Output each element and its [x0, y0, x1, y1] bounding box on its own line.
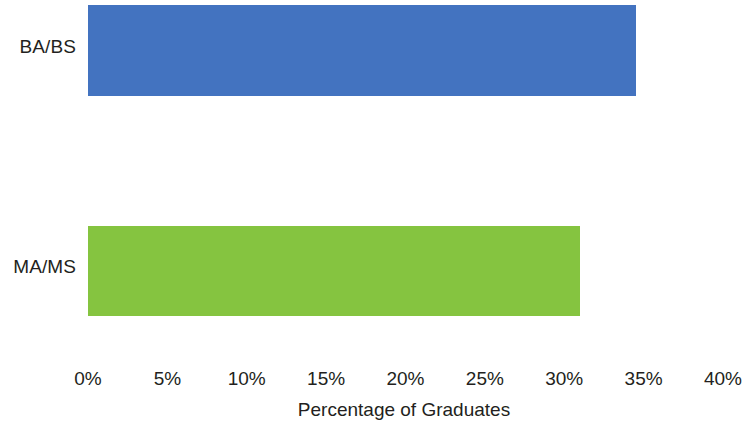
- bar-ma-ms[interactable]: [88, 226, 580, 316]
- category-label-ma-ms: MA/MS: [0, 256, 76, 278]
- x-tick-label: 0%: [74, 368, 101, 390]
- bar-chart: BA/BS MA/MS 0%5%10%15%20%25%30%35%40% Pe…: [0, 0, 748, 434]
- x-tick-label: 20%: [386, 368, 424, 390]
- x-tick-label: 35%: [625, 368, 663, 390]
- x-tick-label: 5%: [154, 368, 181, 390]
- x-axis-tick-labels: 0%5%10%15%20%25%30%35%40%: [0, 368, 748, 396]
- bar-ba-bs[interactable]: [88, 5, 636, 96]
- x-tick-label: 15%: [307, 368, 345, 390]
- x-axis-title: Percentage of Graduates: [0, 399, 748, 421]
- x-tick-label: 25%: [466, 368, 504, 390]
- x-tick-label: 30%: [545, 368, 583, 390]
- bar-row: MA/MS: [0, 226, 748, 316]
- x-axis-title-text: Percentage of Graduates: [298, 399, 510, 421]
- category-label-ba-bs: BA/BS: [0, 36, 76, 58]
- x-tick-label: 10%: [228, 368, 266, 390]
- bar-row: BA/BS: [0, 5, 748, 96]
- plot-area: BA/BS MA/MS: [0, 0, 748, 368]
- x-tick-label: 40%: [704, 368, 742, 390]
